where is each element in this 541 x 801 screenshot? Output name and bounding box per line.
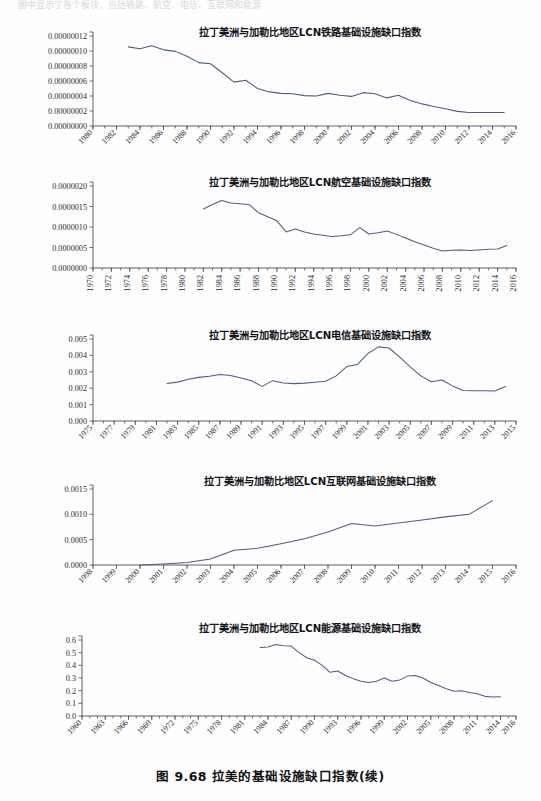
x-tick-label: 1988 bbox=[252, 275, 261, 291]
y-tick-label: 0.00000004 bbox=[48, 92, 87, 101]
x-tick-label: 2009 bbox=[335, 567, 353, 585]
x-tick-label: 1972 bbox=[158, 718, 176, 736]
x-tick-label: 2008 bbox=[405, 128, 423, 146]
x-tick-label: 1978 bbox=[205, 718, 223, 736]
x-tick-label: 1970 bbox=[86, 275, 95, 291]
y-tick-label: 0.0000015 bbox=[52, 203, 87, 212]
x-tick-label: 1981 bbox=[228, 718, 246, 736]
x-tick-label: 1999 bbox=[368, 718, 386, 736]
series-line bbox=[260, 644, 500, 697]
x-tick-label: 2003 bbox=[194, 567, 212, 585]
x-tick-label: 1994 bbox=[241, 128, 259, 146]
x-tick-label: 2013 bbox=[429, 567, 447, 585]
x-tick-label: 1993 bbox=[321, 718, 339, 736]
x-tick-label: 2002 bbox=[170, 567, 188, 585]
x-tick-label: 2010 bbox=[454, 275, 463, 291]
y-tick-label: 0.0000005 bbox=[52, 244, 87, 253]
x-tick-label: 1980 bbox=[178, 275, 187, 291]
x-tick-label: 2001 bbox=[351, 423, 369, 441]
y-tick-label: 0.4 bbox=[66, 661, 76, 670]
series-line bbox=[203, 201, 506, 251]
x-tick-label: 1995 bbox=[288, 423, 306, 441]
x-tick-label: 1978 bbox=[160, 275, 169, 291]
x-tick-label: 1994 bbox=[307, 275, 316, 291]
y-tick-label: 0.004 bbox=[69, 351, 87, 360]
x-tick-label: 2011 bbox=[382, 567, 400, 585]
x-tick-label: 2010 bbox=[358, 567, 376, 585]
x-tick-label: 1990 bbox=[270, 275, 279, 291]
x-tick-label: 2005 bbox=[241, 567, 259, 585]
x-tick-label: 2000 bbox=[362, 275, 371, 291]
x-tick-label: 1997 bbox=[309, 423, 327, 441]
chart-rail-svg: 拉丁美洲与加勒比地区LCN铁路基础设施缺口指数0.000000000.00000… bbox=[0, 22, 541, 167]
x-tick-label: 2002 bbox=[335, 128, 353, 146]
x-tick-label: 1985 bbox=[182, 423, 200, 441]
x-tick-label: 2016 bbox=[499, 128, 517, 146]
x-tick-label: 1984 bbox=[215, 275, 224, 291]
x-tick-label: 1977 bbox=[98, 423, 116, 441]
x-tick-label: 2016 bbox=[499, 567, 517, 585]
chart-title: 拉丁美洲与加勒比地区LCN互联网基础设施缺口指数 bbox=[204, 475, 437, 487]
x-tick-label: 1966 bbox=[112, 718, 130, 736]
y-tick-label: 0.00000010 bbox=[48, 47, 87, 56]
y-tick-label: 0.00000008 bbox=[48, 62, 87, 71]
chart-air: 拉丁美洲与加勒比地区LCN航空基础设施缺口指数0.00000000.000000… bbox=[0, 168, 541, 323]
x-tick-label: 2005 bbox=[394, 423, 412, 441]
series-line bbox=[140, 501, 493, 565]
x-tick-label: 2014 bbox=[484, 718, 502, 736]
x-tick-label: 1984 bbox=[123, 128, 141, 146]
y-tick-label: 0.005 bbox=[69, 335, 87, 344]
y-tick-label: 0.003 bbox=[69, 368, 87, 377]
x-tick-label: 2012 bbox=[452, 128, 470, 146]
chart-energy: 拉丁美洲与加勒比地区LCN能源基础设施缺口指数0.00.10.20.30.40.… bbox=[0, 618, 541, 766]
x-tick-label: 2008 bbox=[437, 718, 455, 736]
x-tick-label: 2004 bbox=[217, 567, 235, 585]
x-tick-label: 1991 bbox=[246, 423, 264, 441]
y-tick-label: 0.0005 bbox=[64, 536, 87, 545]
x-tick-label: 1982 bbox=[100, 128, 118, 146]
x-tick-label: 2011 bbox=[457, 423, 475, 441]
x-tick-label: 1972 bbox=[104, 275, 113, 291]
x-tick-label: 2004 bbox=[358, 128, 376, 146]
x-tick-label: 1998 bbox=[288, 128, 306, 146]
x-tick-label: 2008 bbox=[435, 275, 444, 291]
y-tick-label: 0.00000000 bbox=[48, 122, 87, 131]
x-tick-label: 1990 bbox=[194, 128, 212, 146]
x-tick-label: 2015 bbox=[499, 423, 517, 441]
x-tick-label: 1992 bbox=[288, 275, 297, 291]
x-tick-label: 1998 bbox=[343, 275, 352, 291]
x-tick-label: 2016 bbox=[499, 718, 517, 736]
y-tick-label: 0.3 bbox=[66, 674, 76, 683]
x-tick-label: 2005 bbox=[414, 718, 432, 736]
x-tick-label: 1982 bbox=[196, 275, 205, 291]
x-tick-label: 1996 bbox=[344, 718, 362, 736]
y-tick-label: 0.2 bbox=[66, 687, 76, 696]
x-tick-label: 2008 bbox=[311, 567, 329, 585]
x-tick-label: 2003 bbox=[373, 423, 391, 441]
x-tick-label: 1969 bbox=[135, 718, 153, 736]
y-tick-label: 0.1 bbox=[66, 699, 76, 708]
x-tick-label: 1999 bbox=[330, 423, 348, 441]
x-tick-label: 2010 bbox=[429, 128, 447, 146]
figure-caption: 图 9.68 拉美的基础设施缺口指数(续) bbox=[0, 766, 541, 785]
chart-title: 拉丁美洲与加勒比地区LCN电信基础设施缺口指数 bbox=[209, 329, 432, 341]
x-tick-label: 2014 bbox=[476, 128, 494, 146]
x-tick-label: 1984 bbox=[251, 718, 269, 736]
y-tick-label: 0.001 bbox=[69, 401, 87, 410]
x-tick-label: 1992 bbox=[217, 128, 235, 146]
x-tick-label: 2016 bbox=[509, 275, 518, 291]
y-tick-label: 0.0000020 bbox=[52, 182, 87, 191]
x-tick-label: 2007 bbox=[288, 567, 306, 585]
chart-telecom-svg: 拉丁美洲与加勒比地区LCN电信基础设施缺口指数0.0000.0010.0020.… bbox=[0, 325, 541, 468]
y-tick-label: 0.0010 bbox=[64, 510, 87, 519]
x-tick-label: 2015 bbox=[476, 567, 494, 585]
x-tick-label: 1979 bbox=[119, 423, 137, 441]
series-line bbox=[167, 347, 505, 391]
x-tick-label: 1987 bbox=[275, 718, 293, 736]
figure-page: 图中显示了各个板块，包括铁路、航空、电信、互联网和能源 拉丁美洲与加勒比地区LC… bbox=[0, 0, 541, 801]
x-tick-label: 2002 bbox=[391, 718, 409, 736]
x-tick-label: 1963 bbox=[89, 718, 107, 736]
chart-energy-svg: 拉丁美洲与加勒比地区LCN能源基础设施缺口指数0.00.10.20.30.40.… bbox=[0, 618, 541, 766]
x-tick-label: 1974 bbox=[123, 275, 132, 291]
page-running-text: 图中显示了各个板块，包括铁路、航空、电信、互联网和能源 bbox=[18, 0, 523, 12]
